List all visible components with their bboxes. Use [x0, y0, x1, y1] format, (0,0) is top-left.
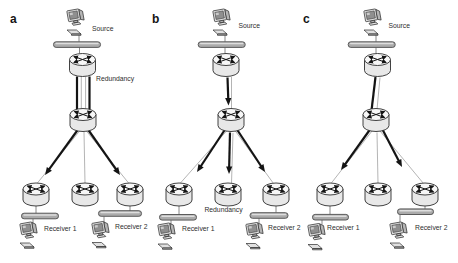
multicast-stream-arrow — [200, 130, 225, 167]
branch-router-icon — [70, 109, 96, 132]
physical-link-line — [377, 133, 378, 184]
branch-router-icon — [218, 109, 244, 132]
ethernet-segment-icon — [22, 213, 59, 219]
panel-letter: a — [10, 12, 17, 26]
panel-letter: b — [152, 12, 159, 26]
panel-b: bSourceRedundancyReceiver 1Receiver 2 — [152, 8, 301, 249]
receiver-label: Receiver 1 — [182, 225, 215, 232]
leaf-router-icon — [365, 183, 391, 206]
multicast-stream-arrow-head — [225, 98, 231, 106]
ethernet-segment-icon — [348, 42, 395, 48]
panel-a: aSourceRedundancyReceiver 1Receiver 2 — [10, 8, 148, 248]
receiver-computer-icon — [92, 221, 110, 248]
multicast-stream-arrow-head — [226, 166, 232, 174]
receiver-label: Receiver 1 — [44, 225, 77, 232]
multicast-stream-arrow — [344, 130, 370, 166]
leaf-router-icon — [215, 183, 241, 206]
multicast-stream-arrow — [228, 78, 229, 100]
physical-link-line — [84, 132, 85, 183]
receiver-label: Receiver 2 — [115, 223, 148, 230]
multicast-stream-arrow — [49, 130, 78, 171]
ethernet-segment-icon — [398, 209, 434, 215]
panel-letter: c — [303, 12, 310, 26]
physical-link-line — [331, 131, 372, 184]
source-label: Source — [389, 22, 411, 29]
branch-router-icon — [363, 109, 389, 132]
multicast-stream-arrow — [382, 129, 399, 162]
source-label: Source — [92, 25, 114, 32]
receiver-computer-icon — [158, 222, 176, 249]
multicast-stream-line — [372, 77, 376, 111]
receiver-computer-icon — [308, 223, 326, 250]
receiver-computer-icon — [390, 221, 408, 248]
leaf-router-icon — [412, 183, 438, 206]
receiver-label: Receiver 2 — [268, 224, 301, 231]
ethernet-segment-icon — [54, 42, 101, 48]
source-computer-icon — [213, 8, 231, 35]
multicast-stream-arrow — [229, 133, 230, 169]
ethernet-segment-icon — [160, 215, 197, 221]
leaf-router-icon — [166, 183, 192, 206]
ethernet-segment-icon — [198, 42, 245, 48]
receiver-computer-icon — [20, 221, 38, 248]
receiver-computer-icon — [246, 222, 264, 249]
leaf-router-icon — [23, 183, 49, 206]
source-router-icon — [213, 54, 239, 77]
multicast-stream-arrow — [88, 130, 117, 171]
ethernet-segment-icon — [99, 211, 142, 217]
source-router-icon — [70, 54, 96, 77]
leaf-router-icon — [263, 183, 289, 206]
source-router-icon — [365, 54, 391, 77]
source-computer-icon — [364, 8, 382, 35]
ethernet-segment-icon — [313, 214, 349, 220]
network-diagram: aSourceRedundancyReceiver 1Receiver 2 bS… — [0, 0, 458, 263]
source-computer-icon — [67, 8, 85, 35]
leaf-router-icon — [72, 183, 98, 206]
receiver-label: Receiver 2 — [415, 224, 448, 231]
panel-c: cSourceReceiver 1Receiver 2 — [303, 8, 448, 250]
source-label: Source — [239, 22, 261, 29]
physical-link-line — [232, 133, 234, 183]
receiver-label: Receiver 1 — [327, 224, 360, 231]
redundancy-label: Redundancy — [204, 206, 243, 214]
multicast-stream-arrow — [237, 130, 262, 167]
physical-link-line — [377, 78, 380, 110]
leaf-router-icon — [317, 183, 343, 206]
redundancy-label: Redundancy — [96, 75, 135, 83]
leaf-router-icon — [117, 183, 143, 206]
ethernet-segment-icon — [250, 213, 288, 219]
figure: aSourceRedundancyReceiver 1Receiver 2 bS… — [0, 0, 458, 263]
